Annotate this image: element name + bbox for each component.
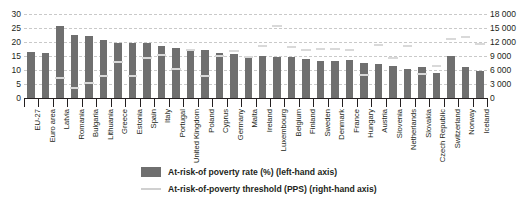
x-tickmark <box>299 98 300 107</box>
threshold-marker <box>359 74 369 76</box>
bar <box>245 56 253 98</box>
x-tickmark <box>241 98 242 107</box>
bar <box>56 26 64 98</box>
threshold-marker <box>475 43 485 45</box>
x-axis-label: Slovakia <box>425 109 433 138</box>
bar-group <box>404 14 412 98</box>
x-axis-label: Netherlands <box>410 109 418 150</box>
x-axis-label: Cyprus <box>222 109 230 133</box>
x-tickmark <box>111 98 112 107</box>
x-tickmarks <box>24 98 487 107</box>
threshold-marker <box>287 46 297 48</box>
x-tickmark <box>487 98 488 107</box>
x-axis-label: Malta <box>251 109 259 128</box>
bar <box>389 66 397 98</box>
threshold-marker <box>461 36 471 38</box>
threshold-marker <box>345 49 355 51</box>
threshold-marker <box>186 49 196 51</box>
threshold-marker <box>388 57 398 59</box>
x-tickmark <box>473 98 474 107</box>
y-tick-right: 18 000 <box>490 10 516 19</box>
threshold-marker <box>417 73 427 75</box>
bar <box>187 50 195 98</box>
bar-group <box>346 14 354 98</box>
bar-group <box>302 14 310 98</box>
bar-group <box>476 14 484 98</box>
x-axis-label: Finland <box>309 109 317 134</box>
bars-layer <box>24 14 487 98</box>
bar-group <box>317 14 325 98</box>
x-tickmark <box>82 98 83 107</box>
x-tickmark <box>227 98 228 107</box>
bar <box>375 64 383 98</box>
x-axis-label: Estonia <box>136 109 144 134</box>
x-axis-label: Iceland <box>483 109 491 134</box>
legend-label-poverty-threshold: At-risk-of-poverty threshold (PPS) (righ… <box>168 185 377 194</box>
bar-group <box>259 14 267 98</box>
bar-group <box>418 14 426 98</box>
threshold-marker <box>200 75 210 77</box>
x-axis-label: EU-27 <box>34 109 42 131</box>
x-tickmark <box>386 98 387 107</box>
threshold-marker <box>215 55 225 57</box>
bar <box>259 56 267 98</box>
x-axis-label: Latvia <box>63 109 71 129</box>
x-axis-label: Portugal <box>179 109 187 137</box>
y-axis-right: 03 0006 0009 00012 00015 00018 000 <box>487 14 525 98</box>
x-tickmark <box>212 98 213 107</box>
x-axis-label: Switzerland <box>454 109 462 148</box>
x-axis-label: Poland <box>208 109 216 133</box>
bar-group <box>447 14 455 98</box>
x-tickmark <box>444 98 445 107</box>
x-tickmark <box>371 98 372 107</box>
legend-item-poverty-threshold: At-risk-of-poverty threshold (PPS) (righ… <box>141 184 377 194</box>
x-axis-label: Luxembourg <box>280 109 288 151</box>
y-tick-right: 15 000 <box>490 24 516 33</box>
bar-group <box>114 14 122 98</box>
line-swatch-icon <box>141 184 161 194</box>
threshold-marker <box>258 45 268 47</box>
bar-group <box>245 14 253 98</box>
plot-area: 051015202530 03 0006 0009 00012 00015 00… <box>0 0 525 160</box>
x-tickmark <box>342 98 343 107</box>
x-tickmark <box>24 98 25 107</box>
chart-legend: At-risk-of poverty rate (%) (left-hand a… <box>0 166 525 211</box>
threshold-marker <box>142 57 152 59</box>
x-tickmark <box>198 98 199 107</box>
x-axis-label: United Kingdom <box>193 109 201 163</box>
x-axis-label: Norway <box>468 109 476 135</box>
legend-label-poverty-rate: At-risk-of poverty rate (%) (left-hand a… <box>168 168 337 177</box>
bar-group <box>143 14 151 98</box>
x-tickmark <box>284 98 285 107</box>
x-tickmark <box>270 98 271 107</box>
x-axis-label: Euro area <box>49 109 57 142</box>
bar <box>331 61 339 98</box>
bar <box>27 52 35 98</box>
y-tick-left: 15 <box>12 52 21 61</box>
chart-container: 051015202530 03 0006 0009 00012 00015 00… <box>0 0 525 211</box>
x-axis-label: Austria <box>381 109 389 133</box>
bar-swatch-icon <box>141 167 161 177</box>
threshold-marker <box>330 48 340 50</box>
x-axis-label: Lithuania <box>107 109 115 140</box>
threshold-marker <box>70 87 80 89</box>
y-tick-right: 9 000 <box>490 52 511 61</box>
bar <box>476 71 484 98</box>
bar-group <box>56 14 64 98</box>
bar-group <box>42 14 50 98</box>
legend-item-poverty-rate: At-risk-of poverty rate (%) (left-hand a… <box>141 167 337 177</box>
bar-group <box>129 14 137 98</box>
y-tick-left: 10 <box>12 66 21 75</box>
y-tick-left: 30 <box>12 10 21 19</box>
y-tick-left: 20 <box>12 38 21 47</box>
threshold-marker <box>157 54 167 56</box>
bar-group <box>375 14 383 98</box>
bar <box>447 56 455 98</box>
y-tick-right: 3 000 <box>490 80 511 89</box>
bar <box>317 61 325 98</box>
x-tickmark <box>169 98 170 107</box>
bar <box>462 67 470 98</box>
x-axis-labels: EU-27Euro areaLatviaRomaniaBulgariaLithu… <box>24 107 487 159</box>
bar <box>85 36 93 98</box>
y-tick-left: 25 <box>12 24 21 33</box>
